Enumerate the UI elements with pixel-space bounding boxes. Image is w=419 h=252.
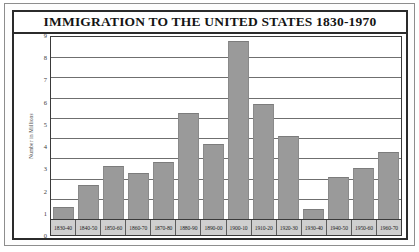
- x-axis-tick-label: 1860-70: [126, 220, 151, 235]
- bar: [128, 173, 149, 220]
- bar-slot: [301, 37, 326, 219]
- chart-frame: IMMIGRATION TO THE UNITED STATES 1830-19…: [12, 10, 408, 240]
- bar-slot: [126, 37, 151, 219]
- bar: [303, 209, 324, 219]
- x-axis-tick-label: 1950-60: [352, 220, 377, 235]
- x-axis-tick-label: 1900-10: [227, 220, 252, 235]
- x-axis-tick-label: 1830-40: [51, 220, 76, 235]
- x-axis-tick-label: 1870-80: [151, 220, 176, 235]
- x-axis-tick-label: 1850-60: [101, 220, 126, 235]
- y-axis-tick-labels: 0123456789: [36, 36, 48, 236]
- bar-slot: [76, 37, 101, 219]
- y-axis-tick-label: 2: [44, 188, 47, 195]
- bar-slot: [226, 37, 251, 219]
- bar-slot: [51, 37, 76, 219]
- bar: [78, 185, 99, 219]
- y-axis-tick-label: 9: [44, 33, 47, 40]
- bar: [278, 136, 299, 219]
- bar-series: [51, 37, 401, 219]
- bar-slot: [376, 37, 401, 219]
- bar-slot: [101, 37, 126, 219]
- bar: [53, 207, 74, 219]
- x-axis-tick-label: 1910-20: [252, 220, 277, 235]
- bar: [103, 166, 124, 219]
- y-axis-tick-label: 7: [44, 77, 47, 84]
- bar-slot: [351, 37, 376, 219]
- x-axis-tick-labels: 1830-401840-501850-601860-701870-801880-…: [50, 220, 402, 236]
- bar-slot: [276, 37, 301, 219]
- x-axis-tick-label: 1960-70: [377, 220, 401, 235]
- chart-page: IMMIGRATION TO THE UNITED STATES 1830-19…: [0, 0, 419, 252]
- x-axis-tick-label: 1940-50: [327, 220, 352, 235]
- y-axis-tick-label: 8: [44, 55, 47, 62]
- y-axis-tick-label: 6: [44, 99, 47, 106]
- y-axis-tick-label: 0: [44, 233, 47, 240]
- bar: [203, 144, 224, 219]
- y-axis-title: Number in Millions: [28, 113, 34, 159]
- bar-slot: [151, 37, 176, 219]
- y-axis-tick-label: 4: [44, 144, 47, 151]
- bar: [153, 162, 174, 219]
- bar-slot: [201, 37, 226, 219]
- x-axis-tick-label: 1840-50: [76, 220, 101, 235]
- bar: [328, 177, 349, 219]
- bar-slot: [176, 37, 201, 219]
- x-axis-tick-label: 1890-00: [201, 220, 226, 235]
- y-axis-tick-label: 5: [44, 122, 47, 129]
- bar-slot: [326, 37, 351, 219]
- bar-slot: [251, 37, 276, 219]
- x-axis-tick-label: 1920-30: [277, 220, 302, 235]
- bar: [228, 41, 249, 219]
- bar: [378, 152, 399, 219]
- x-axis-tick-label: 1930-40: [302, 220, 327, 235]
- y-axis-tick-label: 1: [44, 211, 47, 218]
- bar: [353, 168, 374, 219]
- y-axis-tick-label: 3: [44, 166, 47, 173]
- bar: [178, 113, 199, 219]
- x-axis-tick-label: 1880-90: [176, 220, 201, 235]
- bar: [253, 104, 274, 219]
- title-band: IMMIGRATION TO THE UNITED STATES 1830-19…: [14, 12, 406, 34]
- page-title: IMMIGRATION TO THE UNITED STATES 1830-19…: [44, 14, 377, 30]
- plot-area: [50, 36, 402, 220]
